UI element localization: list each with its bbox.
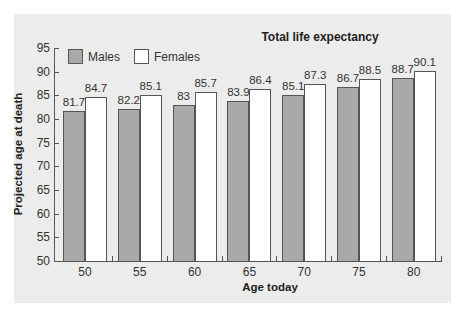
y-tick [54, 48, 59, 49]
x-tick-label: 55 [125, 265, 155, 279]
legend-label-males: Males [88, 50, 120, 64]
bar-males-60 [173, 105, 195, 261]
bar-females-55 [140, 95, 162, 261]
x-tick-label: 75 [344, 265, 374, 279]
bar-males-70 [282, 95, 304, 261]
value-label-females: 86.4 [242, 74, 278, 86]
y-tick-label: 85 [24, 88, 50, 102]
y-tick [54, 214, 59, 215]
y-tick-label: 95 [24, 41, 50, 55]
y-tick-label: 75 [24, 136, 50, 150]
x-tick [167, 256, 168, 261]
y-tick-label: 55 [24, 230, 50, 244]
y-tick [54, 166, 59, 167]
value-label-females: 85.1 [133, 80, 169, 92]
bar-females-60 [195, 92, 217, 261]
y-tick-label: 90 [24, 65, 50, 79]
x-tick-label: 80 [399, 265, 429, 279]
bar-females-80 [414, 71, 436, 261]
y-tick [54, 72, 59, 73]
y-tick-label: 60 [24, 207, 50, 221]
x-tick-label: 60 [180, 265, 210, 279]
y-tick [54, 190, 59, 191]
y-axis-label: Projected age at death [12, 84, 24, 224]
x-tick [386, 256, 387, 261]
y-tick [54, 119, 59, 120]
y-tick-label: 65 [24, 183, 50, 197]
x-tick [276, 256, 277, 261]
y-axis [54, 48, 55, 262]
value-label-males: 82.2 [111, 94, 147, 106]
value-label-males: 83 [166, 90, 202, 102]
x-tick-label: 70 [289, 265, 319, 279]
value-label-females: 88.5 [352, 64, 388, 76]
chart-title: Total life expectancy [230, 30, 410, 44]
value-label-females: 90.1 [407, 56, 443, 68]
value-label-females: 84.7 [78, 82, 114, 94]
bar-males-50 [63, 111, 85, 261]
y-tick [54, 143, 59, 144]
value-label-males: 85.1 [275, 80, 311, 92]
x-tick [441, 256, 442, 261]
y-tick [54, 261, 59, 262]
bar-females-75 [359, 79, 381, 261]
y-tick-label: 50 [24, 254, 50, 268]
x-tick [222, 256, 223, 261]
legend-swatch-males [68, 49, 83, 64]
bar-females-70 [304, 84, 326, 261]
value-label-males: 83.9 [220, 86, 256, 98]
legend-swatch-females [134, 49, 149, 64]
y-tick-label: 70 [24, 159, 50, 173]
x-axis-label: Age today [210, 281, 330, 293]
bar-females-65 [249, 89, 271, 261]
bar-males-55 [118, 109, 140, 261]
x-axis [54, 261, 442, 262]
value-label-females: 85.7 [188, 77, 224, 89]
legend-label-females: Females [154, 50, 200, 64]
bar-females-50 [85, 97, 107, 261]
y-tick-label: 80 [24, 112, 50, 126]
value-label-males: 81.7 [56, 96, 92, 108]
y-tick [54, 237, 59, 238]
x-tick [331, 256, 332, 261]
bar-males-65 [227, 101, 249, 261]
x-tick-label: 65 [234, 265, 264, 279]
value-label-females: 87.3 [297, 69, 333, 81]
bar-males-75 [337, 87, 359, 261]
bar-males-80 [392, 78, 414, 261]
x-tick-label: 50 [70, 265, 100, 279]
x-tick [112, 256, 113, 261]
